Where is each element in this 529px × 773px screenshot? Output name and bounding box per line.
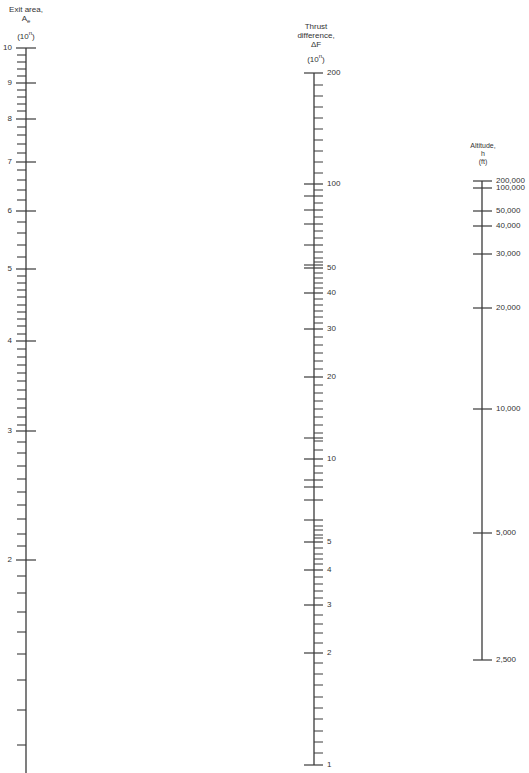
tick-label: 20,000: [496, 303, 521, 312]
tick-label: 8: [8, 114, 13, 123]
tick-label: 6: [8, 206, 13, 215]
tick-label: 9: [8, 78, 13, 87]
tick-label: 5: [8, 264, 13, 273]
tick-label: 4: [8, 336, 13, 345]
tick-label: 1: [327, 760, 332, 769]
tick-label: 2: [8, 555, 13, 564]
nomogram: 1098765432 200100504030201054321 200,000…: [0, 0, 529, 773]
tick-label: 40,000: [496, 221, 521, 230]
tick-label: 50,000: [496, 206, 521, 215]
tick-label: 50: [327, 263, 336, 272]
thrust-difference-scale: 200100504030201054321: [304, 68, 341, 769]
tick-label: 4: [327, 565, 332, 574]
tick-label: 30: [327, 324, 336, 333]
altitude-scale: 200,000100,00050,00040,00030,00020,00010…: [473, 176, 525, 664]
tick-label: 200: [327, 68, 341, 77]
tick-label: 2: [327, 648, 332, 657]
exit-area-scale: 1098765432: [3, 43, 36, 773]
tick-label: 10,000: [496, 404, 521, 413]
tick-label: 2,500: [496, 655, 517, 664]
tick-label: 100: [327, 179, 341, 188]
tick-label: 3: [8, 426, 13, 435]
tick-label: 5,000: [496, 528, 517, 537]
tick-label: 7: [8, 157, 13, 166]
tick-label: 40: [327, 288, 336, 297]
tick-label: 3: [327, 600, 332, 609]
tick-label: 30,000: [496, 249, 521, 258]
tick-label: 100,000: [496, 183, 525, 192]
tick-label: 5: [327, 537, 332, 546]
tick-label: 10: [327, 454, 336, 463]
tick-label: 20: [327, 372, 336, 381]
tick-label: 10: [3, 43, 12, 52]
